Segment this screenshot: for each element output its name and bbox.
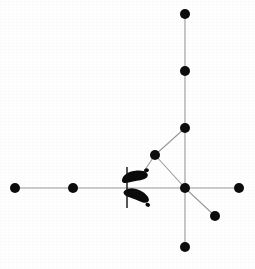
graph-node xyxy=(210,211,220,221)
graph-edge xyxy=(155,155,185,188)
graph-node xyxy=(234,183,244,193)
graph-node xyxy=(68,183,78,193)
graph-node xyxy=(180,242,190,252)
left-foot-lower-icon xyxy=(121,186,153,208)
edges-layer xyxy=(15,14,239,247)
node-graph-svg xyxy=(0,0,255,269)
graph-node xyxy=(180,183,190,193)
graph-node xyxy=(180,9,190,19)
figure-root xyxy=(0,0,255,269)
graph-node xyxy=(180,123,190,133)
graph-edge xyxy=(185,188,215,216)
nodes-layer xyxy=(10,9,244,252)
left-foot-upper-icon xyxy=(120,166,151,186)
footprints-layer xyxy=(120,166,153,208)
graph-edge xyxy=(155,128,185,155)
graph-node xyxy=(10,183,20,193)
graph-node xyxy=(180,66,190,76)
graph-node xyxy=(150,150,160,160)
